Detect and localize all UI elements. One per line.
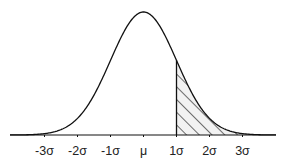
- plot-area: -3σ-2σ-1σμ1σ2σ3σ: [0, 0, 290, 166]
- x-tick-label: -3σ: [35, 144, 54, 158]
- x-tick-label: μ: [140, 144, 147, 158]
- x-tick-label: 1σ: [169, 144, 184, 158]
- x-axis-tick-labels: -3σ-2σ-1σμ1σ2σ3σ: [35, 144, 250, 158]
- x-tick-label: 3σ: [235, 144, 250, 158]
- shaded-tail-region: [177, 60, 277, 135]
- normal-distribution-figure: -3σ-2σ-1σμ1σ2σ3σ: [0, 0, 290, 166]
- x-tick-label: 2σ: [202, 144, 217, 158]
- x-tick-label: -1σ: [101, 144, 120, 158]
- x-tick-label: -2σ: [68, 144, 87, 158]
- bell-curve: [10, 12, 276, 135]
